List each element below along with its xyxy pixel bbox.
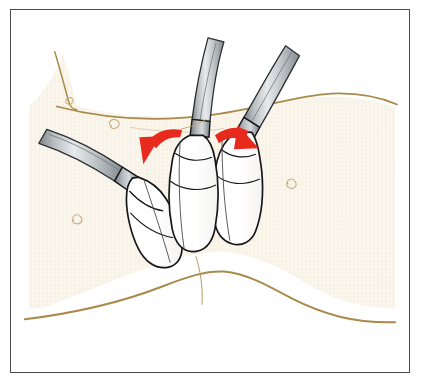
figure-root: Three laparoscopic instruments inserted … [0,0,421,384]
surgical-illustration-canvas [11,10,409,372]
figure-frame-border [10,9,410,373]
center-instrument-body [169,135,218,251]
